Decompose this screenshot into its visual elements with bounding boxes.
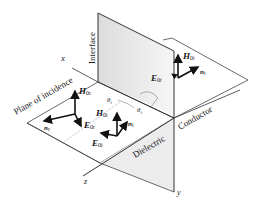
e-incident-arrow — [101, 133, 117, 136]
e-reflected-label: E0r — [83, 120, 95, 130]
n-incident-label: ni — [128, 120, 134, 128]
diagram-canvas: Interface Plane of incidence Dielectric … — [0, 0, 261, 208]
x-axis-label: x — [60, 53, 65, 63]
angle-arc — [118, 100, 134, 108]
plane-of-incidence-label: Plane of incidence — [12, 75, 75, 117]
h-incident-label: H0i — [95, 108, 108, 118]
n-reflected-arrow — [44, 114, 75, 121]
theta-i-upper-label: θi — [107, 96, 112, 105]
interface-label: Interface — [87, 32, 97, 64]
n-transmitted-arrow — [178, 67, 198, 78]
y-axis-label: y — [176, 188, 181, 197]
z-axis-label: z — [83, 177, 88, 186]
x-axis — [72, 68, 98, 82]
n-transmitted-label: nt — [200, 68, 206, 76]
conductor-label: Conductor — [176, 104, 214, 132]
e-reflected-arrow — [75, 114, 81, 126]
n-incident-arrow — [117, 122, 127, 136]
e-incident-label: E0i — [91, 138, 103, 148]
theta-i-right-label: θi — [137, 106, 142, 115]
h-transmitted-label: H0t — [182, 51, 195, 61]
n-reflected-label: nr — [44, 124, 50, 132]
